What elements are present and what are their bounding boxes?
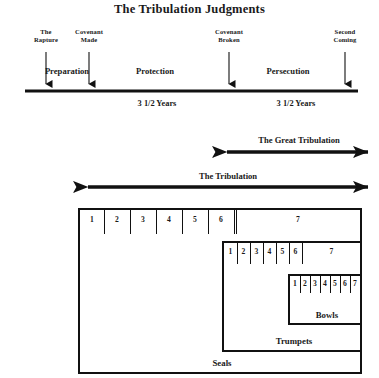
band-label-tribulation: The Tribulation [158,171,298,181]
trumpets-caption: Trumpets [224,336,364,346]
seals-cell-6: 6 [208,216,234,224]
bowls-caption: Bowls [290,310,364,320]
bowls-cell-4: 4 [320,280,330,288]
bowls-cell-2: 2 [300,280,310,288]
bowls-box: 1 2 3 4 5 6 7 Bowls [288,274,362,325]
trumpets-cell-1: 1 [224,248,237,256]
period-label-protection: Protection [117,66,193,76]
trumpets-cell-7: 7 [303,248,360,256]
seals-caption: Seals [80,358,364,368]
band-label-great-tribulation: The Great Tribulation [229,135,369,145]
trumpets-cell-4: 4 [263,248,276,256]
trumpets-cell-6: 6 [289,248,302,256]
bowls-cell-3: 3 [310,280,320,288]
seals-cell-5: 5 [182,216,208,224]
seals-cell-2: 2 [104,216,130,224]
bowls-cell-6: 6 [340,280,350,288]
seals-cell-4: 4 [156,216,182,224]
period-label-preparation: Preparation [29,66,105,76]
duration-label-second-half: 3 1/2 Years [256,99,336,108]
trumpets-cell-3: 3 [250,248,263,256]
trumpets-cell-5: 5 [276,248,289,256]
seals-cell-3: 3 [130,216,156,224]
seals-cell-7: 7 [236,216,360,224]
tribulation-judgments-diagram: The Tribulation Judgments The Rapture Co… [0,0,379,378]
event-label-second-coming: Second Coming [321,28,369,44]
bowls-cell-1: 1 [290,280,300,288]
seals-tick [234,210,235,234]
bowls-cell-7: 7 [350,280,360,288]
period-label-persecution: Persecution [250,66,326,76]
duration-label-first-half: 3 1/2 Years [117,99,197,108]
seals-cell-1: 1 [80,216,104,224]
event-label-covenant-made: Covenant Made [63,28,115,44]
event-label-covenant-broken: Covenant Broken [201,28,257,44]
event-label-rapture: The Rapture [26,28,66,44]
bowls-cell-5: 5 [330,280,340,288]
trumpets-cell-2: 2 [237,248,250,256]
